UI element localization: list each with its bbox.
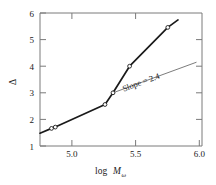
y-axis-ticks-right: [196, 40, 202, 120]
x-axis-title-symbol: M: [112, 166, 122, 176]
y-axis-ticks: [40, 13, 46, 146]
x-tick-label-5-0: 5.0: [66, 149, 78, 159]
x-axis-title-subscript: ω: [122, 171, 127, 178]
data-point: [111, 91, 115, 95]
y-tick-label-1: 1: [30, 142, 35, 152]
x-tick-label-5-5: 5.5: [130, 149, 142, 159]
x-axis-ticks: [72, 140, 199, 146]
data-point: [53, 125, 57, 129]
x-axis-title-prefix: log: [95, 166, 107, 176]
x-axis-title: log M ω: [95, 166, 127, 178]
y-tick-label-5: 5: [30, 35, 35, 45]
y-tick-label-6: 6: [30, 9, 35, 19]
data-point: [50, 126, 54, 130]
y-tick-label-3: 3: [30, 88, 35, 98]
data-point: [166, 26, 170, 30]
data-point: [103, 103, 107, 107]
data-point: [128, 64, 132, 68]
y-tick-labels: 6 5 4 3 2 1: [30, 9, 35, 152]
x-axis-ticks-top: [72, 13, 136, 19]
plot-canvas: 6 5 4 3 2 1 5.0 5.5 6.0 Δ log M ω Slope …: [0, 0, 216, 185]
y-axis-title: Δ: [8, 79, 18, 85]
chart-figure: 6 5 4 3 2 1 5.0 5.5 6.0 Δ log M ω Slope …: [0, 0, 216, 185]
slope-annotation: Slope = 2.4: [121, 71, 162, 94]
y-tick-label-2: 2: [30, 115, 35, 125]
x-tick-label-6-0: 6.0: [194, 149, 206, 159]
x-tick-labels: 5.0 5.5 6.0: [66, 149, 205, 159]
y-tick-label-4: 4: [30, 62, 35, 72]
